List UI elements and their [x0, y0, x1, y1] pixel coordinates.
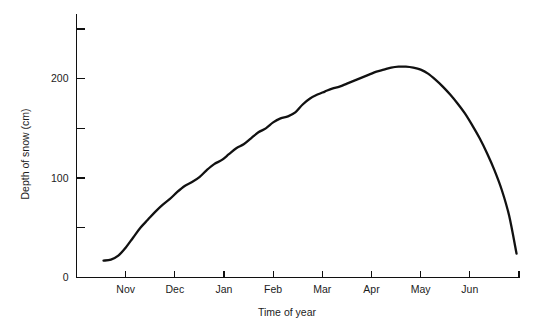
- y-axis-title: Depth of snow (cm): [19, 108, 31, 199]
- x-axis-ticks: NovDecJanFebMarAprMayJun: [116, 271, 519, 295]
- x-tick-label-feb: Feb: [264, 283, 282, 295]
- snow-depth-chart: 0100200 NovDecJanFebMarAprMayJun Time of…: [0, 0, 542, 333]
- y-tick-label-100: 100: [51, 172, 69, 184]
- x-tick-label-apr: Apr: [363, 283, 380, 295]
- x-tick-label-jan: Jan: [216, 283, 233, 295]
- y-tick-label-200: 200: [51, 72, 69, 84]
- y-axis-ticks: 0100200: [51, 29, 85, 283]
- x-tick-label-jun: Jun: [461, 283, 478, 295]
- data-series-group: [104, 67, 517, 261]
- x-axis-title: Time of year: [258, 306, 316, 318]
- axes: [76, 14, 519, 278]
- x-tick-label-nov: Nov: [116, 283, 135, 295]
- data-line-0: [104, 67, 517, 261]
- chart-canvas: 0100200 NovDecJanFebMarAprMayJun Time of…: [0, 0, 542, 333]
- x-tick-label-may: May: [411, 283, 432, 295]
- x-tick-label-mar: Mar: [313, 283, 332, 295]
- y-tick-label-0: 0: [63, 271, 69, 283]
- x-tick-label-dec: Dec: [165, 283, 184, 295]
